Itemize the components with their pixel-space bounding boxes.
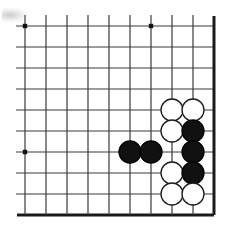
- star-point-2: [23, 150, 27, 154]
- stones-layer[interactable]: [119, 99, 204, 205]
- black-stone-c5-r6[interactable]: [119, 141, 141, 163]
- black-stone-c8-r5[interactable]: [182, 120, 204, 142]
- white-stone-c8-r8[interactable]: [182, 183, 204, 205]
- star-point-1: [149, 24, 153, 28]
- black-stone-c8-r6[interactable]: [182, 141, 204, 163]
- black-stone-c8-r7[interactable]: [182, 162, 204, 184]
- white-stone-c7-r5[interactable]: [161, 120, 183, 142]
- white-stone-c7-r7[interactable]: [161, 162, 183, 184]
- go-board-canvas[interactable]: [0, 0, 229, 240]
- black-stone-c6-r6[interactable]: [140, 141, 162, 163]
- star-point-0: [23, 24, 27, 28]
- white-stone-c7-r8[interactable]: [161, 183, 183, 205]
- white-stone-c8-r4[interactable]: [182, 99, 204, 121]
- white-stone-c7-r4[interactable]: [161, 99, 183, 121]
- go-board[interactable]: [0, 0, 229, 240]
